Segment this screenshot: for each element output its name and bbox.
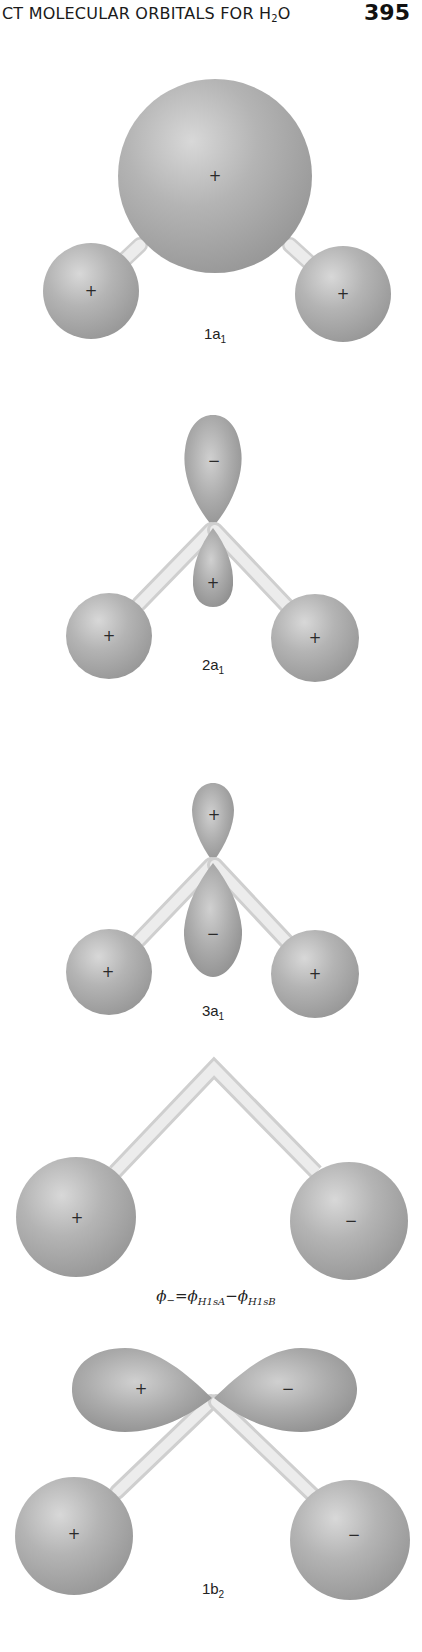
upper-lobe xyxy=(184,415,241,527)
sign-h-right: − xyxy=(345,1212,358,1230)
orbital-2a1: − + + + 2a1 xyxy=(66,415,359,682)
phi-minus-equation: ϕ−=ϕH1sA−ϕH1sB xyxy=(156,1287,275,1307)
bond-frame-highlight xyxy=(115,1068,316,1172)
eq-term1: ϕ xyxy=(188,1287,198,1305)
eq-term2: ϕ xyxy=(238,1287,248,1305)
eq-term1-sub: H1sA xyxy=(197,1296,225,1307)
sign-upper-lobe: − xyxy=(208,452,221,470)
eq-term2-sub: H1sB xyxy=(247,1296,276,1307)
eq-equals: = xyxy=(175,1287,188,1305)
label-subscript: 1 xyxy=(219,1011,225,1022)
sign-lower-lobe: + xyxy=(207,574,220,592)
label-subscript: 1 xyxy=(219,665,225,676)
eq-lhs-sub: − xyxy=(167,1295,175,1306)
sign-h-left: + xyxy=(68,1525,81,1543)
sign-h-left: + xyxy=(102,963,115,981)
eq-minus: − xyxy=(225,1287,238,1305)
orbital-label: 2a1 xyxy=(202,656,225,676)
orbital-label: 1b2 xyxy=(202,1580,225,1600)
label-main: 1b xyxy=(202,1580,219,1597)
sign-h-right: + xyxy=(309,965,322,983)
orbital-1b2: + − + − 1b2 xyxy=(15,1348,410,1600)
orbital-3a1: + − + + 3a1 xyxy=(66,783,359,1022)
label-subscript: 2 xyxy=(219,1589,225,1600)
orbital-phi-minus: + − ϕ−=ϕH1sA−ϕH1sB xyxy=(16,1068,408,1307)
sign-h-left: + xyxy=(103,627,116,645)
sign-upper-lobe: + xyxy=(208,806,221,824)
sign-h-right: + xyxy=(337,285,350,303)
sign-h-right: − xyxy=(348,1526,361,1544)
label-main: 2a xyxy=(202,656,219,673)
sign-h-left: + xyxy=(71,1209,84,1227)
orbital-label: 3a1 xyxy=(202,1002,225,1022)
orbital-1a1: + + + 1a1 xyxy=(43,79,391,345)
bond-frame xyxy=(115,1068,316,1172)
sign-h-left: + xyxy=(85,282,98,300)
sign-h-right: + xyxy=(309,629,322,647)
label-main: 3a xyxy=(202,1002,219,1019)
sign-left-lobe: + xyxy=(135,1380,148,1398)
label-subscript: 1 xyxy=(221,334,227,345)
sign-oxygen: + xyxy=(209,167,222,185)
eq-lhs: ϕ xyxy=(156,1287,166,1305)
h2o-molecular-orbitals-figure: + + + 1a1 − + + + 2a1 + − + + 3a1 xyxy=(0,0,422,1652)
orbital-label: 1a1 xyxy=(204,325,227,345)
label-main: 1a xyxy=(204,325,221,342)
sign-lower-lobe: − xyxy=(207,925,220,943)
sign-right-lobe: − xyxy=(282,1380,295,1398)
